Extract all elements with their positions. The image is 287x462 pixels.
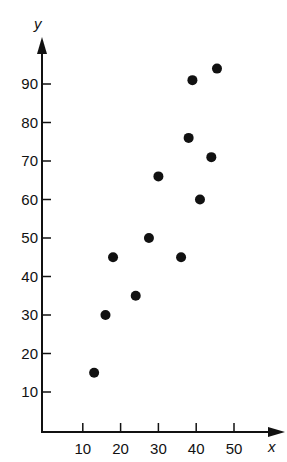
y-tick-label: 40 [21,268,38,285]
data-point [153,171,163,181]
data-point [144,233,154,243]
y-tick-label: 60 [21,191,38,208]
x-tick-label: 20 [112,440,129,457]
data-point [89,368,99,378]
y-tick-label: 30 [21,306,38,323]
data-point [187,75,197,85]
x-axis-label: x [267,438,276,455]
x-ticks: 1020304050 [74,423,242,457]
x-axis-arrow-icon [268,427,285,437]
x-tick-label: 10 [74,440,91,457]
x-tick-label: 50 [226,440,243,457]
data-point [206,152,216,162]
y-tick-label: 70 [21,152,38,169]
x-tick-label: 40 [188,440,205,457]
data-point [100,310,110,320]
data-point [131,291,141,301]
data-point [184,133,194,143]
y-axis-label: y [33,15,43,32]
y-tick-label: 20 [21,345,38,362]
data-point [212,64,222,74]
data-point [195,195,205,205]
y-tick-label: 90 [21,75,38,92]
y-tick-label: 80 [21,114,38,131]
x-tick-label: 30 [150,440,167,457]
data-point [176,252,186,262]
scatter-chart: y x 102030405060708090 1020304050 [0,0,287,462]
y-tick-label: 10 [21,383,38,400]
y-ticks: 102030405060708090 [21,75,51,400]
y-tick-label: 50 [21,229,38,246]
y-axis-arrow-icon [37,37,47,54]
data-point [108,252,118,262]
data-points [89,64,222,378]
